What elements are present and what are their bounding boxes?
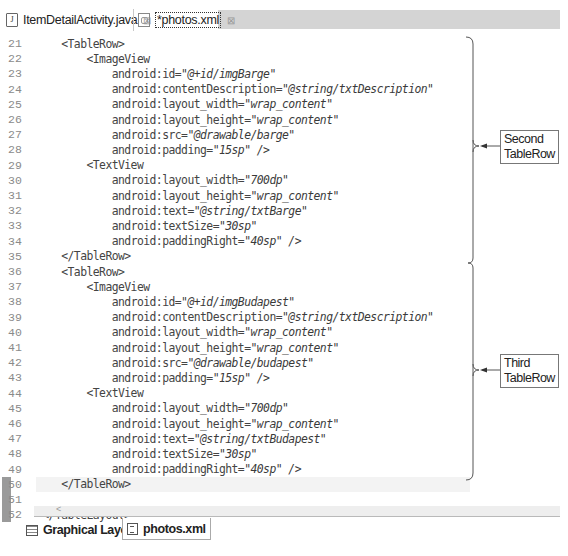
brace-third-tip bbox=[473, 364, 479, 376]
callout-line: TableRow bbox=[504, 371, 555, 386]
arrowhead-second bbox=[480, 144, 487, 149]
callout-third-tablerow: Third TableRow bbox=[500, 354, 559, 388]
brace-third-tablerow bbox=[466, 263, 473, 480]
brace-second-tip bbox=[473, 140, 479, 152]
callout-line: Second bbox=[504, 132, 555, 147]
callout-second-tablerow: Second TableRow bbox=[500, 130, 559, 164]
brace-second-tablerow bbox=[466, 37, 473, 263]
callout-line: TableRow bbox=[504, 147, 555, 162]
annotation-overlay bbox=[0, 0, 568, 556]
callout-line: Third bbox=[504, 356, 555, 371]
arrowhead-third bbox=[480, 368, 487, 373]
